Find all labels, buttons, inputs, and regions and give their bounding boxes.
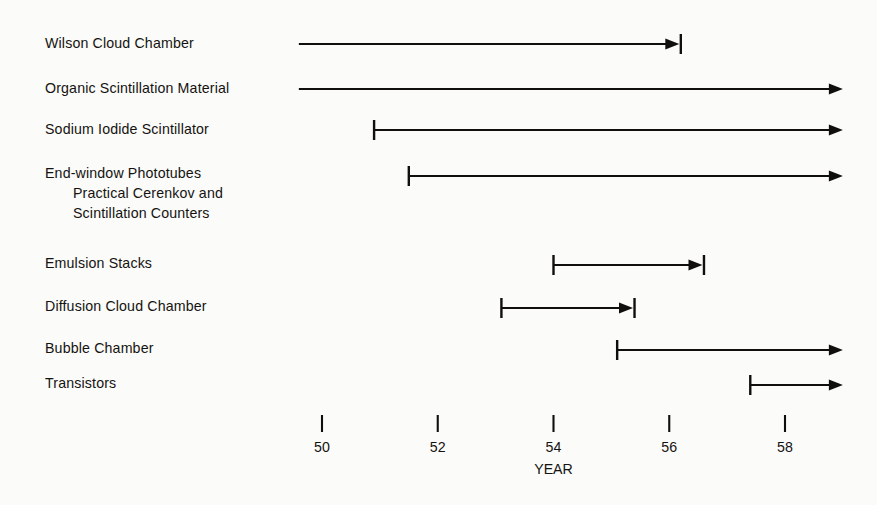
- row-label: Organic Scintillation Material: [45, 80, 229, 96]
- row-label: Sodium Iodide Scintillator: [45, 121, 209, 137]
- row-label-group: End-window PhototubesPractical Cerenkov …: [45, 165, 223, 221]
- timeline-bars-group: [299, 34, 843, 395]
- row-label: End-window Phototubes: [45, 165, 201, 181]
- row-label-group: Organic Scintillation Material: [45, 80, 229, 96]
- row-label: Scintillation Counters: [73, 205, 210, 221]
- bar-arrowhead: [619, 303, 633, 314]
- timeline-bar: [299, 84, 843, 95]
- timeline-bar: [299, 34, 681, 54]
- row-label: Wilson Cloud Chamber: [45, 35, 194, 51]
- bar-arrowhead: [829, 84, 843, 95]
- bar-arrowhead: [829, 345, 843, 356]
- row-label: Bubble Chamber: [45, 340, 154, 356]
- timeline-bar: [374, 120, 843, 140]
- x-axis-title: YEAR: [534, 461, 573, 477]
- timeline-bar: [409, 166, 843, 186]
- bar-arrowhead: [829, 380, 843, 391]
- axis-tick-label: 58: [777, 439, 793, 455]
- row-labels-group: Wilson Cloud ChamberOrganic Scintillatio…: [45, 35, 229, 391]
- axis-tick-label: 52: [430, 439, 446, 455]
- row-label: Transistors: [45, 375, 116, 391]
- bar-arrowhead: [829, 171, 843, 182]
- row-label-group: Diffusion Cloud Chamber: [45, 298, 207, 314]
- row-label-group: Emulsion Stacks: [45, 255, 152, 271]
- axis-tick-label: 56: [661, 439, 677, 455]
- timeline-bar: [617, 340, 843, 360]
- timeline-bar: [750, 375, 843, 395]
- axis-tick-label: 54: [546, 439, 562, 455]
- bar-arrowhead: [829, 125, 843, 136]
- row-label-group: Wilson Cloud Chamber: [45, 35, 194, 51]
- x-axis-group: 5052545658YEAR: [314, 415, 793, 477]
- row-label: Diffusion Cloud Chamber: [45, 298, 207, 314]
- timeline-chart: Wilson Cloud ChamberOrganic Scintillatio…: [0, 0, 877, 505]
- timeline-chart-canvas: Wilson Cloud ChamberOrganic Scintillatio…: [0, 0, 877, 505]
- bar-arrowhead: [665, 39, 679, 50]
- row-label-group: Transistors: [45, 375, 116, 391]
- bar-arrowhead: [688, 260, 702, 271]
- row-label: Emulsion Stacks: [45, 255, 152, 271]
- row-label-group: Bubble Chamber: [45, 340, 154, 356]
- row-label-group: Sodium Iodide Scintillator: [45, 121, 209, 137]
- timeline-bar: [554, 255, 704, 275]
- timeline-bar: [501, 298, 634, 318]
- row-label: Practical Cerenkov and: [73, 185, 223, 201]
- axis-tick-label: 50: [314, 439, 330, 455]
